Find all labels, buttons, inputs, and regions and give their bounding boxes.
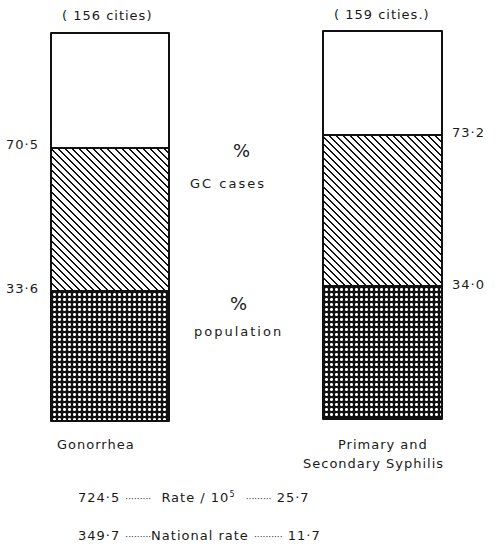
dots: ·········· <box>254 532 283 542</box>
rate-exponent: 5 <box>229 490 235 499</box>
legend-percent-2: % <box>230 293 247 314</box>
gonorrhea-national-rate: 349·7 <box>78 528 120 543</box>
gonorrhea-population-segment <box>52 290 168 420</box>
syphilis-lower-value: 34·0 <box>452 277 485 292</box>
gonorrhea-rate: 724·5 <box>78 490 120 505</box>
dots: ········· <box>125 494 151 504</box>
dots: ········· <box>125 532 151 542</box>
syphilis-rate: 25·7 <box>277 490 310 505</box>
syphilis-remainder-segment <box>324 32 441 134</box>
syphilis-label-line2: Secondary Syphilis <box>303 456 444 471</box>
syphilis-bar <box>322 30 443 420</box>
national-rate-label: National rate <box>151 528 249 543</box>
legend-population: population <box>194 324 283 339</box>
syphilis-label-line1: Primary and <box>338 437 428 452</box>
syphilis-gc-cases-segment <box>324 134 441 287</box>
left-cities-label: ( 156 cities) <box>62 8 152 23</box>
legend-percent-1: % <box>233 140 250 161</box>
syphilis-population-segment <box>324 285 441 418</box>
rate-row: 724·5 ········· Rate / 105 ········· 25·… <box>78 490 310 505</box>
gonorrhea-label: Gonorrhea <box>57 437 135 452</box>
gonorrhea-bar <box>50 32 170 422</box>
gonorrhea-lower-value: 33·6 <box>6 281 39 296</box>
dots: ········· <box>246 494 272 504</box>
rate-label: Rate / 10 <box>161 490 229 505</box>
syphilis-national-rate: 11·7 <box>288 528 321 543</box>
national-rate-row: 349·7 ·········National rate ·········· … <box>78 528 321 543</box>
right-cities-label: ( 159 cities.) <box>334 7 430 22</box>
gonorrhea-gc-cases-segment <box>52 147 168 292</box>
legend-gc-cases: GC cases <box>190 176 266 191</box>
gonorrhea-remainder-segment <box>52 34 168 147</box>
syphilis-upper-value: 73·2 <box>452 125 485 140</box>
gonorrhea-upper-value: 70·5 <box>6 137 39 152</box>
